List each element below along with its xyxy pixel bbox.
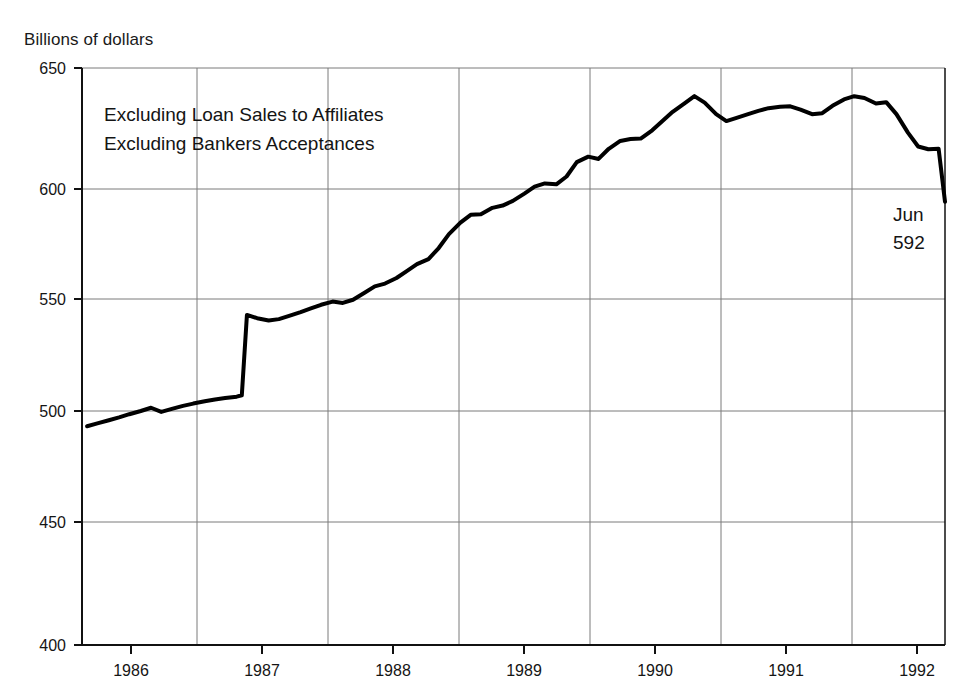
x-tick-label-1992: 1992 xyxy=(899,662,935,679)
chart-plot: 650 600 550 500 450 400 1986 1987 1988 1… xyxy=(0,0,971,696)
y-tick-label-550: 550 xyxy=(39,291,66,308)
annotation-line-2: Excluding Bankers Acceptances xyxy=(104,133,374,154)
x-tick-label-1988: 1988 xyxy=(375,662,411,679)
x-tick-label-1987: 1987 xyxy=(244,662,280,679)
x-tick-labels: 1986 1987 1988 1989 1990 1991 1992 xyxy=(113,662,935,679)
x-tick-label-1989: 1989 xyxy=(506,662,542,679)
x-tick-marks xyxy=(131,645,917,654)
y-tick-label-450: 450 xyxy=(39,514,66,531)
x-tick-label-1991: 1991 xyxy=(768,662,804,679)
y-tick-labels: 650 600 550 500 450 400 xyxy=(39,60,66,654)
chart-figure: Billions of dollars xyxy=(0,0,971,696)
y-tick-label-500: 500 xyxy=(39,403,66,420)
endpoint-label-value: 592 xyxy=(893,232,925,253)
y-tick-marks xyxy=(74,68,82,645)
x-tick-label-1990: 1990 xyxy=(637,662,673,679)
y-tick-label-650: 650 xyxy=(39,60,66,77)
plot-background xyxy=(82,68,945,645)
x-tick-label-1986: 1986 xyxy=(113,662,149,679)
y-tick-label-600: 600 xyxy=(39,181,66,198)
endpoint-label-month: Jun xyxy=(893,204,924,225)
annotation-line-1: Excluding Loan Sales to Affiliates xyxy=(104,104,384,125)
y-tick-label-400: 400 xyxy=(39,637,66,654)
